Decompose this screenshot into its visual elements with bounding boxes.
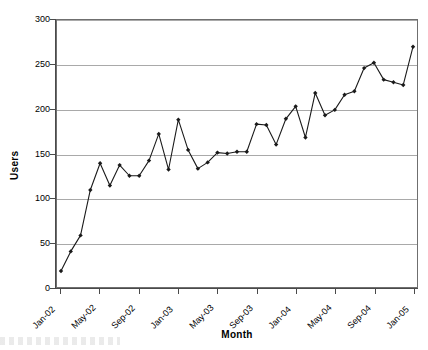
data-point-marker [245, 150, 249, 154]
data-point-marker [303, 135, 307, 139]
scan-artifact [0, 337, 120, 345]
data-point-marker [274, 142, 278, 146]
data-point-marker [401, 83, 405, 87]
data-point-marker [381, 77, 385, 81]
data-point-marker [166, 167, 170, 171]
y-axis-tick-labels: 050100150200250300 [22, 14, 50, 290]
x-tick-label-May-03: May-03 [188, 302, 216, 330]
data-point-marker [157, 132, 161, 136]
data-point-marker [59, 269, 63, 273]
data-point-marker [254, 122, 258, 126]
users-line-series [57, 20, 417, 287]
y-tick-label-300: 300 [22, 15, 50, 24]
y-tick-label-200: 200 [22, 104, 50, 113]
data-point-marker [108, 183, 112, 187]
data-point-marker [176, 117, 180, 121]
x-tick-label-Jan-04: Jan-04 [266, 304, 293, 331]
data-point-marker [186, 148, 190, 152]
plot-area [56, 19, 418, 288]
data-point-marker [264, 123, 268, 127]
data-point-marker [362, 66, 366, 70]
x-tick-label-Jan-03: Jan-03 [148, 304, 175, 331]
y-tick-label-150: 150 [22, 149, 50, 158]
data-point-marker [323, 113, 327, 117]
data-point-marker [411, 45, 415, 49]
x-axis-line [56, 288, 418, 289]
y-tick-label-250: 250 [22, 59, 50, 68]
y-tick-label-100: 100 [22, 194, 50, 203]
data-point-marker [225, 151, 229, 155]
x-tick-label-Sep-04: Sep-04 [345, 303, 373, 331]
data-point-marker [313, 91, 317, 95]
x-axis-tick-labels: Jan-02May-02Sep-02Jan-03May-03Sep-03Jan-… [0, 294, 428, 330]
x-tick-label-Jan-05: Jan-05 [384, 304, 411, 331]
data-point-marker [98, 161, 102, 165]
data-point-marker [372, 61, 376, 65]
data-point-marker [235, 150, 239, 154]
data-point-marker [352, 89, 356, 93]
x-tick-label-Jan-02: Jan-02 [30, 304, 57, 331]
y-tick-label-0: 0 [22, 284, 50, 293]
x-tick-label-May-02: May-02 [70, 302, 98, 330]
data-point-marker [391, 80, 395, 84]
data-point-marker [88, 188, 92, 192]
line-chart-figure: Users 050100150200250300 Jan-02May-02Sep… [0, 0, 428, 350]
y-tick-label-50: 50 [22, 239, 50, 248]
x-tick-label-Sep-03: Sep-03 [227, 303, 255, 331]
x-tick-label-May-04: May-04 [306, 302, 334, 330]
x-tick-label-Sep-02: Sep-02 [109, 303, 137, 331]
